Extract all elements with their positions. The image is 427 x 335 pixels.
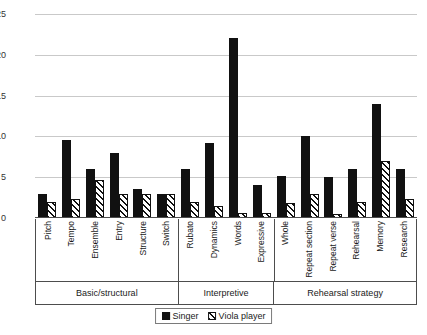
- bar-group: [107, 14, 131, 218]
- bar-singer: [372, 104, 381, 218]
- category-label-text: Research: [400, 221, 409, 257]
- bar-group: [35, 14, 59, 218]
- bar-viola-player: [405, 199, 414, 218]
- bar-group: [250, 14, 274, 218]
- bar-singer: [277, 176, 286, 218]
- category-label: Ensemble: [84, 219, 108, 281]
- category-label: Rehearsal: [345, 219, 369, 281]
- legend-label: Singer: [173, 311, 199, 321]
- bar-group: [154, 14, 178, 218]
- legend-swatch-viola-player: [208, 312, 216, 320]
- bar-viola-player: [381, 161, 390, 218]
- category-label-text: Dynamics: [210, 221, 219, 258]
- category-label: Repeat verse: [321, 219, 345, 281]
- y-tick-label: 25: [0, 9, 6, 19]
- category-label-text: Words: [234, 221, 243, 245]
- bar-singer: [133, 189, 142, 218]
- bar-singer: [229, 38, 238, 218]
- category-label-text: Ensemble: [91, 221, 100, 259]
- category-label: Whole: [274, 219, 298, 281]
- chart-legend: SingerViola player: [155, 308, 273, 324]
- bar-viola-player: [142, 194, 151, 218]
- bar-group: [393, 14, 417, 218]
- category-label: Entry: [107, 219, 131, 281]
- x-axis-line: [35, 217, 417, 218]
- bar-group: [274, 14, 298, 218]
- category-label-text: Switch: [162, 221, 171, 246]
- bar-viola-player: [310, 194, 319, 218]
- bar-viola-player: [190, 202, 199, 218]
- bar-group: [226, 14, 250, 218]
- legend-swatch-singer: [162, 312, 170, 320]
- bar-viola-player: [166, 194, 175, 218]
- bar-group: [83, 14, 107, 218]
- category-label: Repeat section: [297, 219, 321, 281]
- bar-group: [322, 14, 346, 218]
- bar-singer: [348, 169, 357, 218]
- bar-chart: 0510152025 PitchTempoEnsembleEntryStruct…: [0, 0, 427, 335]
- bar-singer: [396, 169, 405, 218]
- y-tick-label: 5: [0, 172, 6, 182]
- y-tick-label: 20: [0, 50, 6, 60]
- legend-item[interactable]: Viola player: [208, 311, 266, 321]
- bar-group: [369, 14, 393, 218]
- category-label: Words: [226, 219, 250, 281]
- bar-singer: [205, 143, 214, 218]
- category-label-text: Structure: [139, 221, 148, 256]
- group-label: Basic/structural: [36, 282, 178, 304]
- category-label-text: Whole: [281, 221, 290, 245]
- category-label-text: Pitch: [44, 221, 53, 240]
- bar-singer: [181, 169, 190, 218]
- y-tick-label: 15: [0, 91, 6, 101]
- bar-viola-player: [71, 199, 80, 218]
- category-label-text: Repeat verse: [329, 221, 338, 272]
- bar-singer: [324, 177, 333, 218]
- bar-group: [298, 14, 322, 218]
- category-label-text: Expressive: [257, 221, 266, 263]
- bar-singer: [157, 194, 166, 218]
- category-label: Rubato: [179, 219, 203, 281]
- bar-singer: [62, 140, 71, 218]
- bar-viola-player: [47, 202, 56, 218]
- category-label: Memory: [369, 219, 393, 281]
- y-tick-label: 0: [0, 213, 6, 223]
- category-label: Tempo: [60, 219, 84, 281]
- bar-viola-player: [119, 194, 128, 218]
- category-label: Pitch: [36, 219, 60, 281]
- plot-area: [35, 14, 417, 218]
- category-label-text: Rubato: [186, 221, 195, 248]
- bar-group: [131, 14, 155, 218]
- bar-singer: [253, 185, 262, 218]
- group-separator: [274, 219, 275, 282]
- bar-singer: [110, 153, 119, 218]
- group-label: Rehearsal strategy: [273, 282, 416, 304]
- category-label-text: Rehearsal: [352, 221, 361, 260]
- bar-singer: [301, 136, 310, 218]
- legend-label: Viola player: [219, 311, 266, 321]
- category-label: Structure: [131, 219, 155, 281]
- y-tick-label: 10: [0, 131, 6, 141]
- category-label-text: Entry: [115, 221, 124, 241]
- bars-layer: [35, 14, 417, 218]
- category-label: Dynamics: [202, 219, 226, 281]
- bar-viola-player: [286, 203, 295, 218]
- bar-group: [59, 14, 83, 218]
- bar-singer: [86, 169, 95, 218]
- category-label: Switch: [155, 219, 179, 281]
- bar-viola-player: [95, 180, 104, 218]
- bar-group: [345, 14, 369, 218]
- group-label: Interpretive: [178, 282, 274, 304]
- bar-group: [178, 14, 202, 218]
- bar-group: [202, 14, 226, 218]
- category-label: Expressive: [250, 219, 274, 281]
- group-separator: [178, 219, 179, 282]
- category-label-text: Repeat section: [305, 221, 314, 278]
- category-label-band: PitchTempoEnsembleEntryStructureSwitchRu…: [35, 219, 417, 282]
- legend-item[interactable]: Singer: [162, 311, 199, 321]
- bar-viola-player: [357, 202, 366, 218]
- group-label-band: Basic/structuralInterpretiveRehearsal st…: [35, 282, 417, 305]
- category-label-text: Memory: [376, 221, 385, 252]
- category-label-text: Tempo: [67, 221, 76, 247]
- category-label: Research: [392, 219, 416, 281]
- bar-singer: [38, 194, 47, 218]
